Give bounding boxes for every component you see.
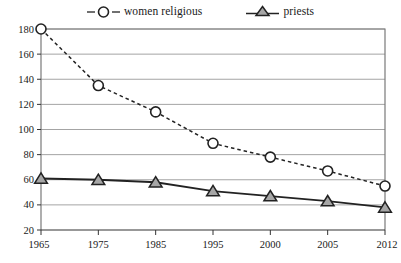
data-point-marker — [380, 181, 390, 191]
x-axis-ticks — [41, 230, 385, 235]
data-point-marker — [208, 138, 218, 148]
y-axis-tick-label: 60 — [24, 174, 35, 185]
x-axis-tick-label: 2005 — [317, 239, 338, 250]
x-axis-tick-label: 1975 — [88, 239, 109, 250]
series-markers — [35, 24, 392, 212]
y-axis-tick-label: 180 — [18, 24, 34, 35]
data-point-marker — [93, 81, 103, 91]
y-axis-tick-label: 160 — [18, 49, 34, 60]
y-axis-labels: 20406080100120140160180 — [18, 24, 34, 236]
y-axis-tick-label: 120 — [18, 99, 34, 110]
data-point-marker — [151, 107, 161, 117]
y-axis-tick-label: 140 — [18, 74, 34, 85]
x-axis-tick-label: 2000 — [260, 239, 281, 250]
x-axis-tick-label: 1985 — [145, 239, 166, 250]
chart-container: women religious priests 2040608010012014… — [0, 0, 401, 263]
plot-area: 20406080100120140160180 1965197519851995… — [0, 0, 401, 263]
data-point-marker — [323, 166, 333, 176]
gridlines — [41, 29, 385, 205]
chart-svg: 20406080100120140160180 1965197519851995… — [0, 0, 401, 263]
series-line-women-religious — [41, 29, 385, 186]
data-point-marker — [36, 24, 46, 34]
y-axis-tick-label: 40 — [24, 199, 35, 210]
data-point-marker — [265, 152, 275, 162]
x-axis-labels: 1965197519851995200020052012 — [29, 239, 398, 250]
x-axis-tick-label: 2012 — [377, 239, 398, 250]
series-lines — [41, 29, 385, 207]
x-axis-tick-label: 1965 — [29, 239, 50, 250]
y-axis-tick-label: 80 — [24, 149, 35, 160]
x-axis-tick-label: 1995 — [203, 239, 224, 250]
y-axis-tick-label: 20 — [24, 225, 35, 236]
y-axis-tick-label: 100 — [18, 124, 34, 135]
